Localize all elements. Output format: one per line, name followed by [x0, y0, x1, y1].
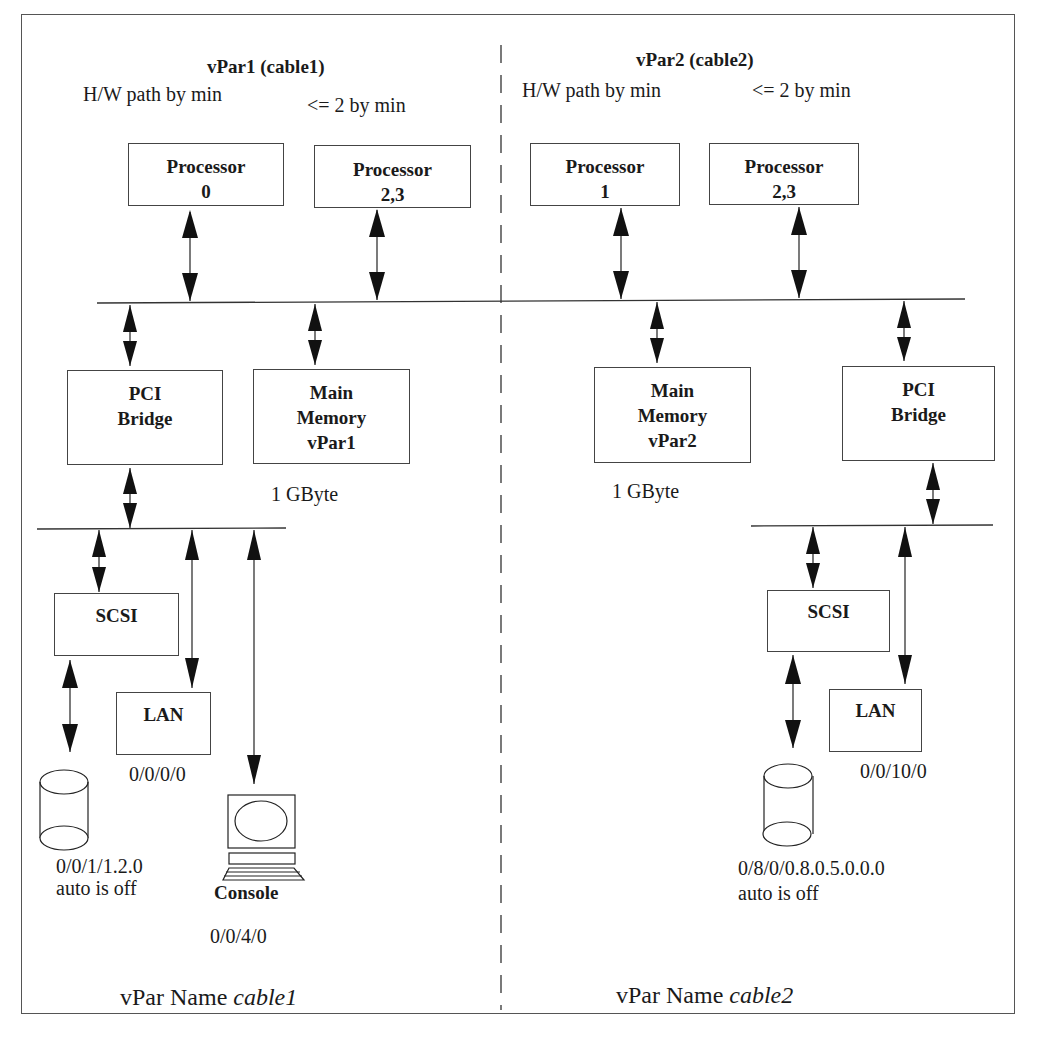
- vpar1-io-bus: [37, 528, 286, 529]
- arrow-bus-pci-bridge-vpar2: [897, 301, 911, 361]
- memory-line3: vPar1: [254, 430, 409, 455]
- memory-size-vpar1: 1 GByte: [271, 483, 338, 506]
- memory-line2: Memory: [254, 405, 409, 430]
- processor-box-vpar1-0: Processor 0: [128, 143, 284, 206]
- processor-label: Processor: [129, 154, 283, 179]
- arrow-iobus-scsi-vpar2: [806, 527, 820, 588]
- pci-bridge-box-vpar2: PCI Bridge: [842, 366, 995, 461]
- arrow-processor0-bus: [182, 210, 198, 301]
- vpar-name-vpar2: vPar Name cable2: [616, 982, 793, 1009]
- arrow-iobus-lan-vpar1: [185, 530, 199, 688]
- vpar-diagram: vPar1 (cable1) H/W path by min <= 2 by m…: [0, 0, 1045, 1049]
- memory-size-vpar2: 1 GByte: [612, 480, 679, 503]
- arrow-bus-pci-bridge-vpar1: [123, 305, 137, 366]
- arrow-processor23-vpar2-bus: [791, 207, 807, 298]
- vpar2-title: vPar2 (cable2): [636, 49, 754, 71]
- processor-label: Processor: [531, 154, 679, 179]
- vpar-name-value: cable2: [729, 982, 793, 1008]
- main-memory-box-vpar2: Main Memory vPar2: [594, 367, 751, 463]
- vpar-name-value: cable1: [233, 984, 297, 1010]
- arrow-iobus-console-vpar1: [247, 530, 261, 784]
- arrow-bus-memory-vpar2: [650, 302, 664, 363]
- arrow-pci-bridge-iobus-vpar2: [926, 463, 940, 524]
- disk-path-vpar2: 0/8/0/0.8.0.5.0.0.0: [738, 857, 885, 880]
- processor-id: 1: [531, 179, 679, 204]
- disk-status-vpar2: auto is off: [738, 882, 819, 905]
- arrow-processor1-bus: [613, 208, 629, 299]
- processor-id: 2,3: [710, 179, 858, 204]
- scsi-box-vpar2: SCSI: [767, 590, 890, 652]
- console-label: Console: [214, 882, 278, 904]
- processor-box-vpar1-23: Processor 2,3: [314, 145, 471, 208]
- vpar1-note-limit: <= 2 by min: [307, 94, 406, 117]
- vpar-name-prefix: vPar Name: [616, 982, 729, 1008]
- pci-bridge-box-vpar1: PCI Bridge: [67, 370, 223, 465]
- console-path: 0/0/4/0: [210, 925, 267, 948]
- arrow-bus-memory-vpar1: [308, 304, 322, 365]
- vpar1-note-hw-path: H/W path by min: [83, 83, 222, 106]
- pci-bridge-line1: PCI: [843, 377, 994, 402]
- arrow-pci-bridge-iobus-vpar1: [123, 468, 137, 528]
- memory-line2: Memory: [595, 403, 750, 428]
- memory-line1: Main: [595, 378, 750, 403]
- arrow-processor23-vpar1-bus: [369, 209, 385, 300]
- system-bus: [97, 299, 965, 303]
- disk-status-vpar1: auto is off: [56, 877, 137, 900]
- scsi-box-vpar1: SCSI: [54, 593, 179, 656]
- vpar2-io-bus: [751, 525, 993, 526]
- lan-path-vpar2: 0/0/10/0: [860, 760, 927, 783]
- scsi-label: SCSI: [768, 599, 889, 624]
- arrow-iobus-scsi-vpar1: [92, 530, 106, 592]
- lan-label: LAN: [830, 698, 921, 723]
- disk-icon-vpar1: [40, 770, 88, 850]
- pci-bridge-line1: PCI: [68, 381, 222, 406]
- arrow-scsi-disk-vpar1: [62, 660, 78, 752]
- vpar-name-prefix: vPar Name: [120, 984, 233, 1010]
- memory-line3: vPar2: [595, 428, 750, 453]
- disk-path-vpar1: 0/0/1/1.2.0: [56, 855, 143, 878]
- vpar1-title: vPar1 (cable1): [207, 56, 325, 78]
- lan-box-vpar1: LAN: [116, 692, 211, 755]
- pci-bridge-line2: Bridge: [68, 406, 222, 431]
- processor-label: Processor: [710, 154, 858, 179]
- vpar-name-vpar1: vPar Name cable1: [120, 984, 297, 1011]
- lan-path-vpar1: 0/0/0/0: [129, 763, 186, 786]
- lan-box-vpar2: LAN: [829, 689, 922, 752]
- processor-box-vpar2-1: Processor 1: [530, 143, 680, 206]
- processor-box-vpar2-23: Processor 2,3: [709, 143, 859, 205]
- processor-id: 2,3: [315, 182, 470, 207]
- lan-label: LAN: [117, 702, 210, 727]
- vpar2-note-limit: <= 2 by min: [752, 79, 851, 102]
- scsi-label: SCSI: [55, 603, 178, 628]
- processor-label: Processor: [315, 157, 470, 182]
- disk-icon-vpar2: [763, 764, 813, 846]
- arrow-iobus-lan-vpar2: [898, 527, 912, 684]
- vpar2-note-hw-path: H/W path by min: [522, 79, 661, 102]
- pci-bridge-line2: Bridge: [843, 402, 994, 427]
- memory-line1: Main: [254, 380, 409, 405]
- processor-id: 0: [129, 179, 283, 204]
- arrow-scsi-disk-vpar2: [785, 655, 801, 748]
- console-icon: [223, 795, 304, 880]
- main-memory-box-vpar1: Main Memory vPar1: [253, 369, 410, 464]
